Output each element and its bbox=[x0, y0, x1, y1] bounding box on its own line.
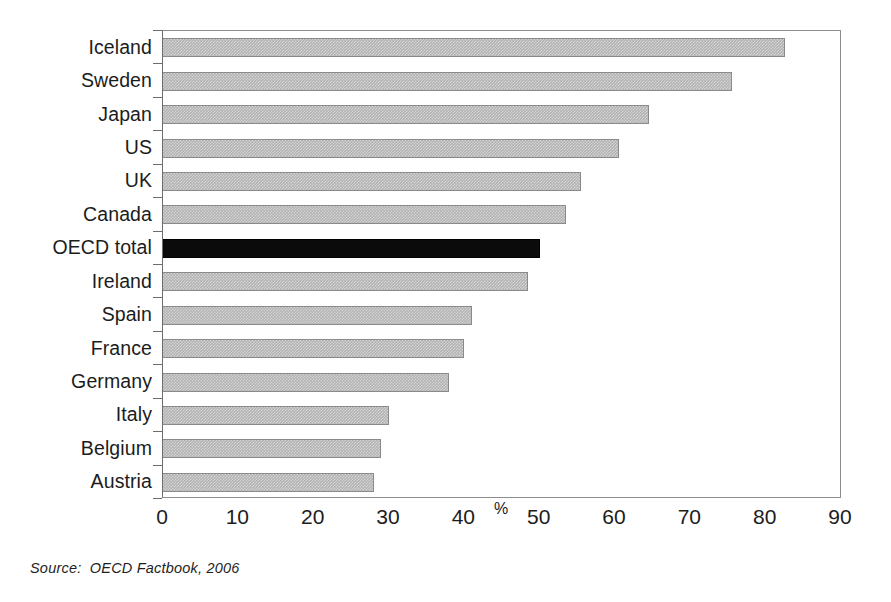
category-label-germany: Germany bbox=[71, 370, 152, 393]
bar-uk bbox=[163, 172, 581, 191]
category-label-us: US bbox=[125, 136, 152, 159]
y-axis-tick bbox=[153, 197, 162, 198]
x-tick-label-80: 80 bbox=[753, 505, 776, 529]
y-axis-tick bbox=[153, 130, 162, 131]
bar-ireland bbox=[163, 272, 528, 291]
chart-figure: IcelandSwedenJapanUSUKCanadaOECD totalIr… bbox=[0, 0, 891, 602]
bar-us bbox=[163, 139, 619, 158]
x-tick-label-10: 10 bbox=[226, 505, 249, 529]
bar-austria bbox=[163, 473, 374, 492]
y-axis-tick bbox=[153, 364, 162, 365]
category-label-ireland: Ireland bbox=[92, 269, 152, 292]
y-axis-tick bbox=[153, 331, 162, 332]
x-tick-label-50: 50 bbox=[527, 505, 550, 529]
x-tick-label-0: 0 bbox=[156, 505, 168, 529]
bar-belgium bbox=[163, 439, 381, 458]
bar-sweden bbox=[163, 72, 732, 91]
category-label-france: France bbox=[91, 336, 152, 359]
bar-italy bbox=[163, 406, 389, 425]
category-axis-labels: IcelandSwedenJapanUSUKCanadaOECD totalIr… bbox=[0, 30, 152, 498]
category-label-uk: UK bbox=[125, 169, 152, 192]
x-tick-label-30: 30 bbox=[376, 505, 399, 529]
percent-axis-label: % bbox=[494, 500, 508, 518]
category-label-japan: Japan bbox=[98, 102, 152, 125]
category-label-sweden: Sweden bbox=[81, 69, 152, 92]
y-axis-tick bbox=[153, 97, 162, 98]
bar-iceland bbox=[163, 38, 785, 57]
category-label-belgium: Belgium bbox=[81, 436, 152, 459]
x-tick-label-20: 20 bbox=[301, 505, 324, 529]
y-axis-tick bbox=[153, 264, 162, 265]
category-label-austria: Austria bbox=[91, 470, 152, 493]
y-axis-tick bbox=[153, 465, 162, 466]
y-axis-tick bbox=[153, 297, 162, 298]
x-tick-label-60: 60 bbox=[602, 505, 625, 529]
category-label-oecd-total: OECD total bbox=[52, 236, 152, 259]
plot-area bbox=[162, 30, 841, 498]
category-label-iceland: Iceland bbox=[88, 35, 152, 58]
category-label-canada: Canada bbox=[83, 202, 152, 225]
y-axis-tick bbox=[153, 231, 162, 232]
y-axis-tick bbox=[153, 30, 162, 31]
y-axis-tick bbox=[153, 398, 162, 399]
x-tick-label-70: 70 bbox=[678, 505, 701, 529]
x-tick-label-90: 90 bbox=[828, 505, 851, 529]
bar-germany bbox=[163, 373, 449, 392]
bar-rows bbox=[163, 31, 840, 497]
y-axis-tick bbox=[153, 498, 162, 499]
y-axis-tick bbox=[153, 431, 162, 432]
y-axis-tick bbox=[153, 164, 162, 165]
bar-spain bbox=[163, 306, 472, 325]
x-axis-tick-labels: 0102030405060708090% bbox=[0, 505, 891, 539]
bar-japan bbox=[163, 105, 649, 124]
category-label-spain: Spain bbox=[102, 303, 152, 326]
category-label-italy: Italy bbox=[116, 403, 152, 426]
x-tick-label-40: 40 bbox=[452, 505, 475, 529]
source-note: Source: OECD Factbook, 2006 bbox=[30, 560, 240, 576]
bar-canada bbox=[163, 205, 566, 224]
y-axis-tick bbox=[153, 63, 162, 64]
bar-oecd-total bbox=[163, 239, 540, 258]
bar-france bbox=[163, 339, 464, 358]
